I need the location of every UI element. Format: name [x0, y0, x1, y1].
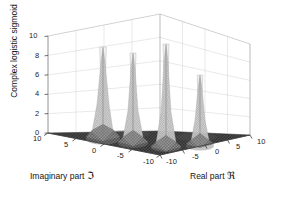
fraktur-real-icon: ℜ — [227, 170, 235, 181]
x-tick-10: 10 — [33, 135, 41, 143]
y-axis-title: Real part ℜ — [190, 170, 235, 181]
z-tick-6: 6 — [35, 71, 39, 79]
x-axis-title: Imaginary part ℑ — [30, 170, 94, 181]
surface-mesh — [48, 130, 250, 155]
y-tick-5: 5 — [236, 143, 240, 151]
y-tick-neg10: -10 — [166, 158, 177, 166]
z-axis-spine — [45, 36, 49, 133]
y-tick-neg5: -5 — [192, 153, 199, 161]
z-tick-4: 4 — [35, 90, 39, 98]
x-tick-0: 0 — [92, 147, 96, 155]
y-tick-10: 10 — [257, 138, 265, 146]
z-axis-title: Complex logistic sigmoid — [9, 1, 19, 101]
z-tick-10: 10 — [29, 32, 37, 40]
x-axis-title-text: Imaginary part — [30, 171, 84, 181]
back-wall-right — [160, 14, 250, 135]
x-tick-neg10: -10 — [143, 158, 154, 166]
z-tick-8: 8 — [35, 52, 39, 60]
x-tick-neg5: -5 — [117, 152, 124, 160]
y-tick-0: 0 — [215, 148, 219, 156]
x-tick-5: 5 — [64, 141, 68, 149]
z-tick-2: 2 — [35, 110, 39, 118]
y-axis-title-text: Real part — [190, 171, 225, 181]
fraktur-imaginary-icon: ℑ — [87, 170, 94, 181]
figure-canvas: 10 8 6 4 2 0 10 5 0 -5 -10 -10 -5 0 5 10… — [0, 0, 292, 199]
